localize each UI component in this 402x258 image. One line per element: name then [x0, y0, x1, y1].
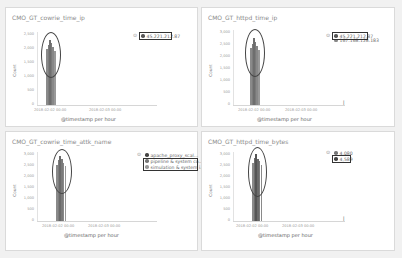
y-tick: 2,500 [18, 32, 34, 36]
x-tick: 2018-02-02 00:00 [34, 108, 66, 112]
chart-panel-httpd-time-bytes: CMO_GT_httpd_time_bytes Count 3,000 2,50… [201, 131, 395, 251]
y-axis [233, 30, 234, 106]
y-axis [233, 152, 234, 222]
x-tick: 2018-02-03 00:00 [89, 108, 121, 112]
x-tick: 2018-02-02 00:00 [42, 224, 74, 228]
x-tick: 2018-02-03 00:00 [282, 224, 314, 228]
legend-toggle-icon[interactable]: ⊙ [137, 151, 141, 157]
y-tick: 0 [214, 218, 230, 222]
y-axis-label: Count [208, 64, 213, 76]
y-tick: 500 [214, 90, 230, 94]
y-tick: 3,000 [214, 152, 230, 156]
x-axis [233, 105, 345, 106]
chart-panel-cowrie-time-ip: CMO_GT_cowrie_time_ip Count 2,500 2,000 … [5, 7, 198, 127]
y-tick: 1,000 [214, 196, 230, 200]
y-axis-label: Count [12, 184, 17, 196]
legend-highlight-box [332, 32, 368, 40]
highlight-ellipse [245, 29, 265, 77]
y-tick: 500 [18, 207, 34, 211]
plot-area: Count 2,500 2,000 1,500 1,000 500 0 2018… [6, 8, 197, 126]
legend-toggle-icon[interactable]: ⊙ [326, 32, 330, 38]
y-axis [37, 32, 38, 106]
axis-end-marker: ꟾ [343, 100, 344, 106]
highlight-ellipse [52, 149, 72, 194]
x-tick: 2018-02-03 00:00 [285, 108, 317, 112]
legend-highlight-box [332, 155, 351, 163]
y-tick: 3,000 [18, 152, 34, 156]
x-axis [37, 105, 157, 106]
chart-panel-httpd-time-ip: CMO_GT_httpd_time_ip Count 3,000 2,500 2… [201, 7, 395, 127]
y-tick: 2,000 [214, 54, 230, 58]
legend-highlight-box [139, 32, 172, 40]
y-axis-label: Count [208, 184, 213, 196]
x-axis-label: @timestamp per hour [258, 232, 313, 238]
y-tick: 1,000 [18, 74, 34, 78]
y-tick: 1,500 [214, 66, 230, 70]
x-axis-label: @timestamp per hour [257, 116, 312, 122]
legend-toggle-icon[interactable]: ⊙ [133, 32, 137, 38]
x-axis [37, 221, 157, 222]
y-tick: 2,000 [18, 174, 34, 178]
y-tick: 2,000 [18, 46, 34, 50]
plot-area: Count 3,000 2,500 2,000 1,500 1,000 500 … [202, 8, 394, 126]
legend-highlight-box [143, 158, 198, 171]
y-tick: 0 [214, 102, 230, 106]
y-tick: 500 [214, 207, 230, 211]
y-tick: 2,000 [214, 174, 230, 178]
y-tick: 1,000 [214, 78, 230, 82]
highlight-ellipse [41, 32, 61, 78]
plot-area: Count 3,000 2,500 2,000 1,500 1,000 500 … [202, 132, 394, 250]
legend-dot-icon [145, 153, 149, 157]
x-axis-label: @timestamp per hour [61, 116, 116, 122]
y-tick: 1,500 [18, 60, 34, 64]
axis-end-marker: ꟾ [343, 216, 344, 222]
y-tick: 500 [18, 88, 34, 92]
y-tick: 1,500 [214, 185, 230, 189]
y-axis-label: Count [12, 64, 17, 76]
y-tick: 3,000 [214, 30, 230, 34]
x-tick: 2018-02-03 00:00 [88, 224, 120, 228]
x-tick: 2018-02-02 00:00 [236, 224, 268, 228]
y-tick: 1,000 [18, 196, 34, 200]
y-tick: 0 [18, 102, 34, 106]
y-tick: 2,500 [214, 42, 230, 46]
x-axis-label: @timestamp per hour [64, 232, 119, 238]
y-axis [37, 152, 38, 222]
x-tick: 2018-02-02 00:00 [238, 108, 270, 112]
highlight-ellipse [248, 147, 267, 197]
y-tick: 2,500 [214, 163, 230, 167]
y-tick: 1,500 [18, 185, 34, 189]
y-tick: 2,500 [18, 163, 34, 167]
y-tick: 0 [18, 218, 34, 222]
legend-toggle-icon[interactable]: ⊙ [326, 149, 330, 155]
x-axis [233, 221, 345, 222]
plot-area: Count 3,000 2,500 2,000 1,500 1,000 500 … [6, 132, 197, 250]
chart-panel-cowrie-time-attk-name: CMO_GT_cowrie_time_attk_name Count 3,000… [5, 131, 198, 251]
